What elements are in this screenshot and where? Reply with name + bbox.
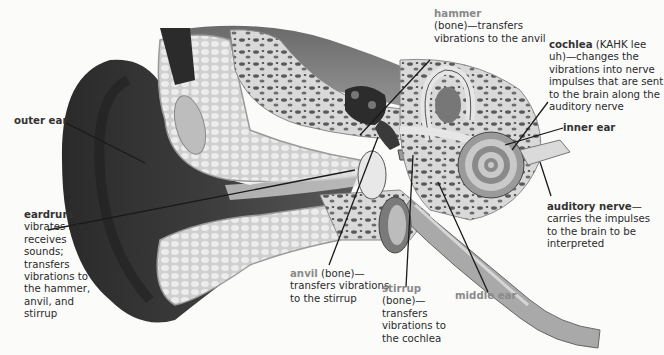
- label-inner-ear: inner ear: [563, 122, 615, 134]
- eardrum-dash: —: [73, 209, 83, 220]
- auditory-nerve-term: auditory nerve: [547, 201, 632, 212]
- label-anvil: anvil (bone)—transfers vibrations to the…: [290, 268, 390, 305]
- inner-ear-term: inner ear: [563, 122, 615, 133]
- auditory-nerve-dash: —: [632, 201, 642, 212]
- label-stirrup: stirrup (bone)—transfers vibrations to t…: [382, 283, 448, 345]
- label-hammer: hammer (bone)—transfers vibrations to th…: [434, 8, 554, 45]
- label-middle-ear: middle ear: [455, 290, 516, 302]
- cochlea-term: cochlea: [549, 39, 593, 50]
- middle-ear-term: middle ear: [455, 290, 516, 301]
- hammer-term: hammer: [434, 8, 481, 19]
- anvil-term: anvil: [290, 268, 318, 279]
- stirrup-term: stirrup: [382, 283, 421, 294]
- auditory-nerve-description: carries the impulses to the brain to be …: [547, 213, 650, 249]
- stirrup-description: (bone)—transfers vibrations to the cochl…: [382, 295, 446, 343]
- label-eardrum: eardrum— vibrates as it receives sounds;…: [24, 209, 96, 321]
- label-outer-ear: outer ear: [14, 115, 67, 127]
- label-cochlea: cochlea (KAHK lee uh)—changes the vibrat…: [549, 39, 664, 113]
- eardrum-term: eardrum: [24, 209, 73, 220]
- label-auditory-nerve: auditory nerve— carries the impulses to …: [547, 201, 657, 251]
- hammer-description: (bone)—transfers vibrations to the anvil: [434, 20, 546, 43]
- outer-ear-term: outer ear: [14, 115, 67, 126]
- eardrum-description: vibrates as it receives sounds; transfer…: [24, 221, 90, 319]
